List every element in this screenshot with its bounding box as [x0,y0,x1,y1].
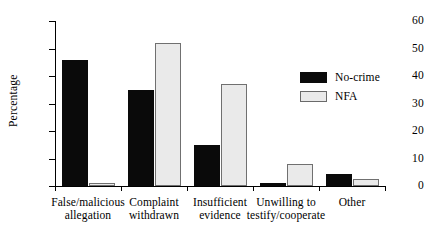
bar-no-crime-4 [326,174,352,186]
bar-nfa-2 [221,84,247,186]
bar-no-crime-2 [194,145,220,186]
y-tick-60 [49,21,55,22]
y-tick-20 [49,131,55,132]
y-tick-label-50: 50 [378,43,424,55]
x-tick-1 [121,186,122,191]
legend-label: NFA [335,91,357,103]
bar-nfa-0 [89,183,115,186]
bar-chart: Percentage 0102030405060 False/malicious… [0,0,424,250]
legend-swatch-icon [300,91,327,102]
x-axis-label-line1: Complaint [129,196,178,208]
y-tick-label-40: 40 [378,70,424,82]
legend-swatch-icon [300,72,327,83]
bar-no-crime-1 [128,90,154,186]
x-axis-line [55,186,385,187]
y-tick-30 [49,104,55,105]
y-tick-40 [49,76,55,77]
chart-legend: No-crimeNFA [300,70,380,108]
x-tick-3 [253,186,254,191]
y-tick-label-20: 20 [378,125,424,137]
y-tick-10 [49,159,55,160]
y-axis-line [55,21,56,187]
legend-item-no-crime: No-crime [300,70,380,85]
y-tick-label-30: 30 [378,98,424,110]
bar-nfa-1 [155,43,181,186]
legend-item-nfa: NFA [300,89,380,104]
x-tick-0 [55,186,56,191]
y-tick-label-10: 10 [378,153,424,165]
bar-nfa-3 [287,164,313,186]
x-axis-label-4: Other [305,196,399,209]
x-axis-label-line2: testify/cooperate [239,209,333,222]
bar-no-crime-3 [260,183,286,186]
x-tick-end [385,186,386,191]
x-tick-4 [319,186,320,191]
bar-nfa-4 [353,179,379,186]
x-axis-label-line1: Other [339,196,366,208]
bar-no-crime-0 [62,60,88,187]
x-tick-2 [187,186,188,191]
y-tick-50 [49,49,55,50]
y-axis-title: Percentage [8,56,20,146]
legend-label: No-crime [335,72,380,84]
y-tick-label-60: 60 [378,15,424,27]
